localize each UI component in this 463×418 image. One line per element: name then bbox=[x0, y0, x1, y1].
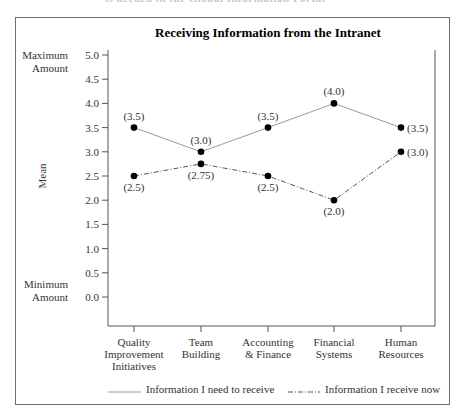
data-point-label: (3.5) bbox=[407, 122, 428, 135]
y-tick-label: 4.5 bbox=[85, 73, 99, 85]
data-point-marker bbox=[198, 149, 205, 156]
x-category-label: Resources bbox=[378, 348, 423, 360]
data-point-marker bbox=[398, 149, 405, 156]
y-max-label: Amount bbox=[32, 62, 68, 74]
data-point-label: (2.0) bbox=[323, 205, 344, 218]
data-point-label: (4.0) bbox=[323, 85, 344, 98]
data-point-label: (2.5) bbox=[123, 181, 144, 194]
data-point-marker bbox=[131, 124, 138, 131]
data-point-label: (3.0) bbox=[190, 134, 211, 147]
x-category-label: Financial bbox=[314, 336, 355, 348]
data-point-label: (3.5) bbox=[123, 110, 144, 123]
y-tick-label: 3.5 bbox=[85, 122, 99, 134]
data-point-label: (2.5) bbox=[257, 181, 278, 194]
y-axis-label: Mean bbox=[36, 163, 48, 189]
y-tick-label: 4.0 bbox=[85, 97, 99, 109]
data-point-marker bbox=[265, 124, 272, 131]
chart-title: Receiving Information from the Intranet bbox=[155, 25, 381, 40]
x-category-label: Quality bbox=[118, 336, 151, 348]
y-max-label: Maximum bbox=[22, 49, 68, 61]
data-point-label: (3.5) bbox=[257, 110, 278, 123]
x-category-label: Human bbox=[385, 336, 418, 348]
data-point-marker bbox=[398, 124, 405, 131]
y-tick-label: 5.0 bbox=[85, 49, 99, 61]
x-category-label: Initiatives bbox=[112, 360, 156, 372]
y-tick-label: 2.5 bbox=[85, 170, 99, 182]
y-min-label: Minimum bbox=[24, 278, 68, 290]
x-category-label: Accounting bbox=[242, 336, 294, 348]
x-category-label: Improvement bbox=[104, 348, 163, 360]
data-point-marker bbox=[331, 197, 338, 204]
legend-label: Information I need to receive bbox=[146, 383, 274, 395]
y-tick-label: 2.0 bbox=[85, 194, 99, 206]
y-tick-label: 1.0 bbox=[85, 243, 99, 255]
x-category-label: Systems bbox=[316, 348, 353, 360]
data-point-marker bbox=[331, 100, 338, 107]
data-point-label: (3.0) bbox=[407, 146, 428, 159]
legend-label: Information I receive now bbox=[325, 383, 440, 395]
data-point-marker bbox=[198, 161, 205, 168]
line-chart: Receiving Information from the Intranet0… bbox=[0, 0, 463, 418]
x-category-label: & Finance bbox=[245, 348, 291, 360]
x-category-label: Building bbox=[182, 348, 221, 360]
data-point-label: (2.75) bbox=[188, 169, 215, 182]
y-tick-label: 3.0 bbox=[85, 146, 99, 158]
y-tick-label: 1.5 bbox=[85, 218, 99, 230]
y-tick-label: 0.5 bbox=[85, 267, 99, 279]
y-min-label: Amount bbox=[32, 291, 68, 303]
data-point-marker bbox=[131, 173, 138, 180]
x-category-label: Team bbox=[189, 336, 214, 348]
y-tick-label: 0.0 bbox=[85, 291, 99, 303]
data-point-marker bbox=[265, 173, 272, 180]
